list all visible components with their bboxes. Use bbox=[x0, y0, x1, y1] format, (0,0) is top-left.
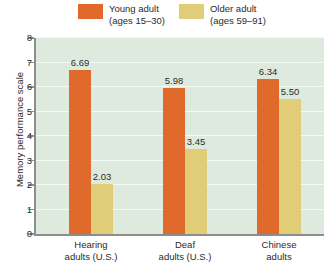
y-tick-label: 7 bbox=[12, 58, 32, 68]
bar-older-adult bbox=[185, 149, 207, 234]
gridline bbox=[35, 37, 324, 38]
bar-value-label: 6.34 bbox=[251, 67, 285, 77]
y-axis-line bbox=[34, 38, 36, 235]
legend-swatch-older-adult bbox=[179, 4, 204, 19]
legend-entry-older-adult: Older adult (ages 59–91) bbox=[179, 3, 266, 26]
y-tick-label: 2 bbox=[12, 180, 32, 190]
x-category-label-line: adults bbox=[224, 251, 328, 263]
plot-area: 6.692.035.983.456.345.50 bbox=[35, 38, 324, 234]
bar-value-label: 5.50 bbox=[273, 87, 307, 97]
legend-entry-young-adult: Young adult (ages 15–30) bbox=[78, 3, 165, 26]
y-tick-label: 3 bbox=[12, 156, 32, 166]
bar-young-adult bbox=[69, 70, 91, 234]
bar-chart: Memory performance scale 6.692.035.983.4… bbox=[0, 33, 328, 275]
chart-legend: Young adult (ages 15–30) Older adult (ag… bbox=[78, 3, 324, 29]
legend-label-young-adult: Young adult (ages 15–30) bbox=[109, 3, 165, 26]
y-tick-label: 4 bbox=[12, 131, 32, 141]
legend-label-older-adult: Older adult (ages 59–91) bbox=[210, 3, 266, 26]
y-tick-label: 0 bbox=[12, 229, 32, 239]
legend-swatch-young-adult bbox=[78, 4, 103, 19]
bar-value-label: 2.03 bbox=[85, 172, 119, 182]
legend-label-young-adult-line1: Young adult bbox=[109, 3, 165, 15]
y-tick-label: 5 bbox=[12, 107, 32, 117]
x-axis-line bbox=[34, 234, 324, 236]
bar-young-adult bbox=[163, 88, 185, 235]
y-tick-label: 6 bbox=[12, 82, 32, 92]
bar-value-label: 3.45 bbox=[179, 137, 213, 147]
bar-young-adult bbox=[257, 79, 279, 234]
legend-label-older-adult-line2: (ages 59–91) bbox=[210, 15, 266, 27]
y-tick-label: 1 bbox=[12, 205, 32, 215]
bar-value-label: 6.69 bbox=[63, 58, 97, 68]
legend-label-older-adult-line1: Older adult bbox=[210, 3, 266, 15]
y-tick-label: 8 bbox=[12, 33, 32, 43]
x-category-label: Chineseadults bbox=[224, 239, 328, 262]
bar-value-label: 5.98 bbox=[157, 76, 191, 86]
bar-older-adult bbox=[279, 99, 301, 234]
legend-label-young-adult-line2: (ages 15–30) bbox=[109, 15, 165, 27]
bar-older-adult bbox=[91, 184, 113, 234]
x-category-label-line: Chinese bbox=[224, 239, 328, 251]
